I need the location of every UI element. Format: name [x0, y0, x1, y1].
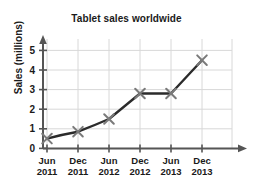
data-markers	[42, 55, 207, 143]
y-tick-label-0: 0	[21, 143, 35, 154]
y-tick-label-3: 3	[21, 84, 35, 95]
y-tick-label-2: 2	[21, 104, 35, 115]
y-tick-label-5: 5	[21, 45, 35, 56]
y-tick-label-4: 4	[21, 65, 35, 76]
data-line-series	[47, 60, 202, 138]
y-axis	[39, 35, 47, 148]
x-tick-month: Dec	[182, 155, 222, 166]
x-tick-year: 2013	[182, 166, 222, 177]
y-tick-label-1: 1	[21, 123, 35, 134]
x-axis	[43, 144, 247, 152]
x-tick-label-dec-2013: Dec 2013	[182, 155, 222, 177]
chart-container: Tablet sales worldwide Sales (millions)	[0, 0, 253, 189]
